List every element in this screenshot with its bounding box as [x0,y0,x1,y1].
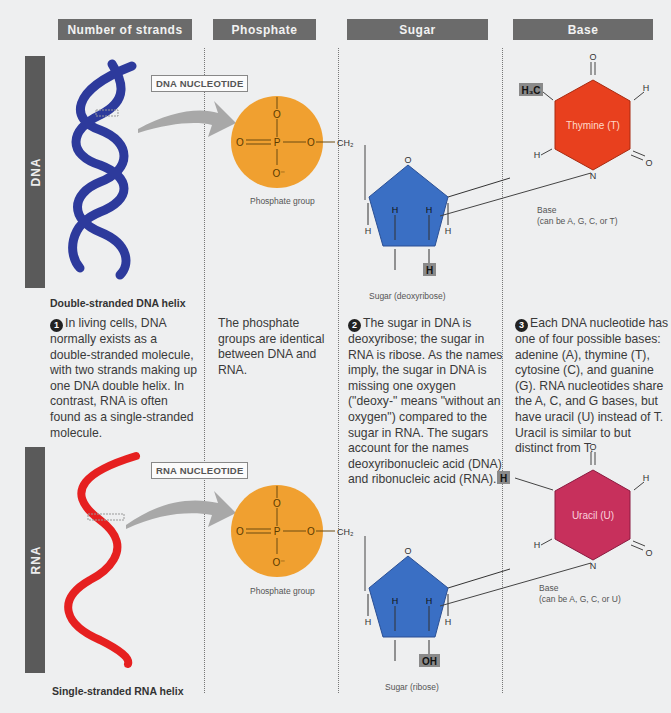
svg-text:CH₂: CH₂ [337,527,354,537]
svg-text:O: O [589,52,596,62]
arrow-icon [120,485,240,535]
note-strands: 1In living cells, DNA normally exists as… [50,316,200,441]
dna-double-helix [60,60,140,280]
dna-base-thymine: OHO HN H₃C Thymine (T) [495,48,665,188]
svg-text:O: O [236,137,244,148]
dna-nucleotide-tag: DNA NUCLEOTIDE [151,75,248,92]
svg-text:H: H [426,205,433,215]
dna-sugar-caption: Sugar (deoxyribose) [369,291,446,301]
rna-sugar-caption: Sugar (ribose) [385,682,439,692]
svg-text:O: O [273,498,281,509]
dna-base-caption-1: Base [537,205,556,215]
svg-text:O: O [404,155,411,165]
svg-text:OH: OH [422,656,437,667]
dna-base-caption-2: (can be A, G, C, or T) [537,216,618,226]
dna-phosphate-group: OOP OO⁻ CH₂ [230,95,370,195]
svg-text:H: H [426,596,433,606]
arrow-icon [130,95,240,145]
svg-text:H: H [500,473,507,484]
svg-text:H: H [365,617,372,627]
svg-text:H: H [643,83,650,93]
svg-text:O: O [307,526,315,537]
rna-sugar-pentagon: OHH HH OH [355,536,465,681]
svg-text:O: O [307,137,315,148]
svg-text:H: H [643,473,650,483]
note-base: 3Each DNA nucleotide has one of four pos… [515,316,671,457]
header-phosphate: Phosphate [213,19,316,40]
svg-text:N: N [590,171,597,181]
svg-text:O⁻: O⁻ [273,557,286,568]
svg-text:O: O [404,546,411,556]
svg-text:H: H [445,226,452,236]
note-sugar: 2The sugar in DNA is deoxyribose; the su… [348,316,503,488]
svg-text:P: P [274,137,281,148]
header-number-of-strands: Number of strands [58,19,192,40]
svg-text:O: O [645,158,652,168]
svg-text:N: N [590,561,597,571]
row-label-dna: DNA [25,56,45,288]
svg-text:O: O [273,109,281,120]
svg-text:H: H [426,265,433,276]
row-label-rna: RNA [25,447,45,673]
rna-nucleotide-tag: RNA NUCLEOTIDE [151,462,248,479]
svg-text:Uracil (U): Uracil (U) [572,510,614,521]
svg-text:H: H [365,226,372,236]
header-base: Base [513,19,653,40]
svg-text:H: H [445,617,452,627]
rna-phosphate-group: OOP OO⁻ CH₂ [230,484,370,584]
svg-text:Thymine (T): Thymine (T) [566,120,620,131]
svg-text:P: P [274,526,281,537]
dna-sugar-pentagon: OHH HH H [355,145,465,290]
svg-text:O: O [589,442,596,452]
svg-text:O: O [236,526,244,537]
header-sugar: Sugar [347,19,488,40]
dna-phosphate-caption: Phosphate group [250,196,315,206]
rna-base-caption-2: (can be A, G, C, or U) [539,594,621,604]
svg-text:O⁻: O⁻ [273,168,286,179]
rna-phosphate-caption: Phosphate group [250,586,315,596]
svg-text:H₃C: H₃C [521,85,540,96]
svg-text:CH₂: CH₂ [337,138,354,148]
dna-helix-caption: Double-stranded DNA helix [50,297,186,309]
svg-text:H: H [534,150,541,160]
rna-single-helix [60,450,140,670]
rna-helix-caption: Single-stranded RNA helix [52,685,183,697]
svg-text:H: H [392,596,399,606]
note-phosphate: The phosphate groups are identical betwe… [218,316,333,378]
svg-text:H: H [392,205,399,215]
svg-text:H: H [534,540,541,550]
rna-base-caption-1: Base [539,583,558,593]
rna-base-uracil: OHO HN H Uracil (U) [495,438,665,578]
svg-text:O: O [645,548,652,558]
